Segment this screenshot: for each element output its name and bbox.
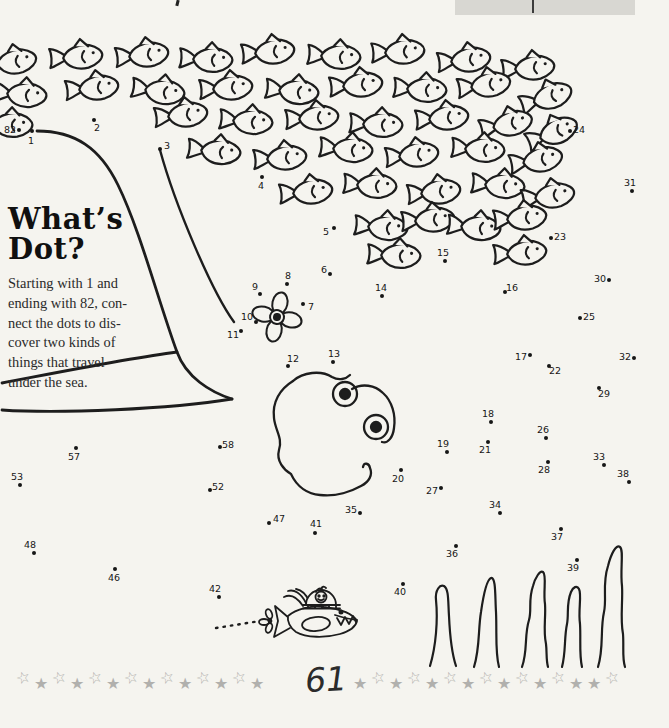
puzzle-page: What’s Dot? Starting with 1 and ending w…: [0, 0, 669, 728]
puzzle-dot-20: [399, 468, 403, 472]
puzzle-dot-8: [285, 282, 289, 286]
dot-number-label: 16: [506, 283, 518, 293]
dot-number-label: 6: [321, 265, 327, 275]
dot-number-label: 24: [573, 125, 585, 135]
dot-number-label: 47: [273, 514, 285, 524]
puzzle-dot-19: [445, 450, 449, 454]
dot-number-label: 32: [619, 352, 631, 362]
dot-number-label: 9: [252, 282, 258, 292]
star-icon: ★: [250, 676, 264, 692]
puzzle-dot-41: [313, 531, 317, 535]
star-icon: ★: [569, 676, 583, 692]
dot-number-label: 17: [515, 352, 527, 362]
dot-number-label: 21: [479, 445, 491, 455]
dot-number-label: 12: [287, 354, 299, 364]
dot-number-label: 18: [482, 409, 494, 419]
puzzle-dot-10: [254, 320, 258, 324]
puzzle-dot-14: [380, 294, 384, 298]
star-icon: ★: [34, 676, 48, 692]
puzzle-dot-12: [286, 364, 290, 368]
dot-number-label: 23: [554, 232, 566, 242]
dot-number-label: 57: [68, 452, 80, 462]
dot-number-label: 38: [617, 469, 629, 479]
dot-number-label: 82: [4, 125, 16, 135]
star-icon: ★: [533, 676, 547, 692]
dot-number-label: 8: [285, 271, 291, 281]
dot-number-label: 14: [375, 283, 387, 293]
puzzle-dot-30: [607, 278, 611, 282]
star-icon: ★: [497, 676, 511, 692]
dot-number-label: 11: [227, 330, 239, 340]
puzzle-dot-11: [239, 329, 243, 333]
puzzle-dot-27: [439, 486, 443, 490]
dot-number-label: 37: [551, 532, 563, 542]
dot-number-label: 31: [624, 178, 636, 188]
dot-number-label: 26: [537, 425, 549, 435]
puzzle-dot-23: [549, 236, 553, 240]
dot-number-label: 35: [345, 505, 357, 515]
puzzle-dot-24: [568, 129, 572, 133]
dot-number-label: 3: [164, 141, 170, 151]
dot-number-label: 40: [394, 587, 406, 597]
dot-number-label: 58: [222, 440, 234, 450]
dot-number-label: 30: [594, 274, 606, 284]
puzzle-dot-48: [32, 551, 36, 555]
puzzle-dot-18: [489, 420, 493, 424]
dot-number-label: 22: [549, 366, 561, 376]
puzzle-dot-4: [260, 175, 264, 179]
dot-number-label: 27: [426, 486, 438, 496]
puzzle-dot-7: [301, 302, 305, 306]
puzzle-dot-53: [18, 483, 22, 487]
stars-left: ☆★☆★☆★☆★☆★☆★☆★: [16, 674, 264, 690]
puzzle-dot-26: [544, 436, 548, 440]
dot-number-label: 39: [567, 563, 579, 573]
dot-number-label: 13: [328, 349, 340, 359]
star-icon: ★: [106, 676, 120, 692]
star-icon: ★: [587, 676, 601, 692]
dot-number-label: 19: [437, 439, 449, 449]
dot-number-label: 5: [323, 227, 329, 237]
dot-number-label: 4: [258, 181, 264, 191]
dot-number-label: 25: [583, 312, 595, 322]
puzzle-dot-82: [17, 128, 21, 132]
puzzle-dot-57: [74, 446, 78, 450]
dot-number-label: 28: [538, 465, 550, 475]
puzzle-dot-5: [332, 226, 336, 230]
dot-number-label: 15: [437, 248, 449, 258]
dot-number-label: 52: [212, 482, 224, 492]
star-icon: ★: [178, 676, 192, 692]
puzzle-dot-15: [443, 259, 447, 263]
puzzle-dot-34: [498, 511, 502, 515]
puzzle-dot-33: [602, 463, 606, 467]
dots-layer: 1234567891011121314151617181920212223242…: [0, 0, 669, 728]
puzzle-dot-31: [630, 189, 634, 193]
page-number: 61: [295, 658, 357, 700]
star-icon: ★: [425, 676, 439, 692]
puzzle-dot-1: [30, 129, 34, 133]
stars-right: ★☆★☆★☆★☆★☆★☆★★☆: [353, 674, 619, 690]
dot-number-label: 53: [11, 472, 23, 482]
puzzle-dot-47: [267, 521, 271, 525]
dot-number-label: 10: [241, 312, 253, 322]
puzzle-dot-38: [627, 480, 631, 484]
dot-number-label: 29: [598, 389, 610, 399]
star-icon: ★: [353, 676, 367, 692]
puzzle-dot-17: [528, 353, 532, 357]
star-icon: ★: [142, 676, 156, 692]
dot-number-label: 46: [108, 573, 120, 583]
dot-number-label: 1: [28, 136, 34, 146]
dot-number-label: 2: [94, 123, 100, 133]
dot-number-label: 41: [310, 519, 322, 529]
puzzle-dot-42: [217, 595, 221, 599]
puzzle-dot-9: [258, 292, 262, 296]
puzzle-dot-3: [158, 147, 162, 151]
dot-number-label: 36: [446, 549, 458, 559]
puzzle-dot-6: [328, 272, 332, 276]
puzzle-dot-46: [113, 567, 117, 571]
puzzle-dot-25: [578, 316, 582, 320]
star-icon: ★: [70, 676, 84, 692]
dot-number-label: 33: [593, 452, 605, 462]
puzzle-dot-13: [331, 360, 335, 364]
puzzle-dot-35: [358, 511, 362, 515]
star-icon: ★: [389, 676, 403, 692]
